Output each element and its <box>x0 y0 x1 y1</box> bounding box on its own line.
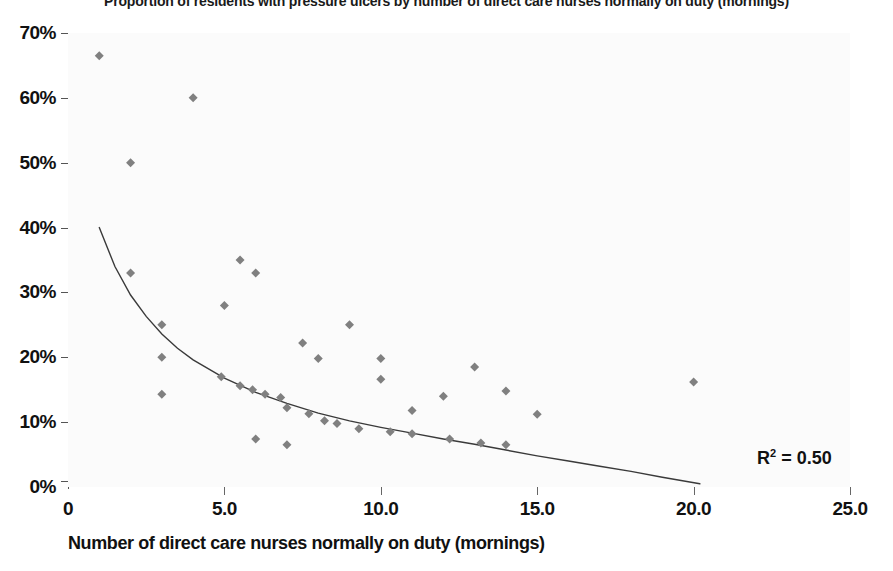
y-tick-mark <box>61 228 68 229</box>
scatter-point <box>314 354 323 363</box>
x-tick-label: 10.0 <box>363 498 398 520</box>
r-squared-annotation: R2 = 0.50 <box>757 447 832 469</box>
scatter-point <box>376 354 385 363</box>
y-tick-mark <box>61 98 68 99</box>
y-tick-label: 30% <box>0 281 56 303</box>
scatter-point <box>220 301 229 310</box>
scatter-point <box>445 435 454 444</box>
scatter-point <box>157 353 166 362</box>
scatter-point <box>501 440 510 449</box>
scatter-point <box>95 51 104 60</box>
r2-label: R <box>757 448 770 468</box>
scatter-point <box>298 339 307 348</box>
y-tick-label: 20% <box>0 346 56 368</box>
x-tick-mark <box>694 487 695 495</box>
y-tick-label: 70% <box>0 22 56 44</box>
scatter-point <box>251 435 260 444</box>
x-tick-label: 0 <box>63 498 73 520</box>
scatter-point <box>501 387 510 396</box>
r2-value: = 0.50 <box>776 448 832 468</box>
x-tick-label: 15.0 <box>520 498 555 520</box>
scatter-point <box>251 268 260 277</box>
scatter-point <box>157 320 166 329</box>
chart-title: Proportion of residents with pressure ul… <box>0 0 893 9</box>
trendline <box>99 228 700 484</box>
x-axis-title: Number of direct care nurses normally on… <box>68 533 545 554</box>
scatter-point <box>320 416 329 425</box>
scatter-point <box>354 424 363 433</box>
scatter-point <box>408 429 417 438</box>
y-tick-label: 10% <box>0 411 56 433</box>
y-tick-label: 50% <box>0 152 56 174</box>
scatter-point <box>189 93 198 102</box>
chart-figure: Proportion of residents with pressure ul… <box>0 0 893 571</box>
scatter-point <box>126 268 135 277</box>
y-tick-mark <box>61 422 68 423</box>
x-tick-label: 5.0 <box>212 498 237 520</box>
scatter-points <box>95 51 698 449</box>
x-tick-mark <box>850 487 851 495</box>
y-tick-label: 40% <box>0 217 56 239</box>
scatter-point <box>345 320 354 329</box>
x-tick-mark <box>537 487 538 495</box>
y-tick-label: 60% <box>0 87 56 109</box>
y-tick-mark <box>61 33 68 34</box>
plot-area <box>68 33 850 487</box>
scatter-point <box>126 158 135 167</box>
y-tick-mark <box>61 292 68 293</box>
scatter-point <box>236 256 245 265</box>
y-tick-mark <box>61 357 68 358</box>
scatter-point <box>333 419 342 428</box>
scatter-point <box>157 390 166 399</box>
scatter-point <box>236 381 245 390</box>
x-tick-label: 20.0 <box>676 498 711 520</box>
y-tick-mark <box>61 163 68 164</box>
x-tick-label: 25.0 <box>833 498 868 520</box>
plot-canvas <box>68 33 850 487</box>
scatter-point <box>282 440 291 449</box>
y-tick-label: 0% <box>0 476 56 498</box>
scatter-point <box>470 363 479 372</box>
x-tick-mark <box>224 487 225 495</box>
scatter-point <box>439 392 448 401</box>
scatter-point <box>689 377 698 386</box>
x-tick-mark <box>381 487 382 495</box>
scatter-point <box>376 375 385 384</box>
trendline-path <box>99 228 700 484</box>
scatter-point <box>408 406 417 415</box>
scatter-point <box>533 410 542 419</box>
